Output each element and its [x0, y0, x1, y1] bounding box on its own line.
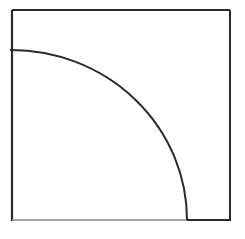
quarter-arc: [10, 50, 187, 220]
diagram-canvas: [0, 0, 245, 239]
